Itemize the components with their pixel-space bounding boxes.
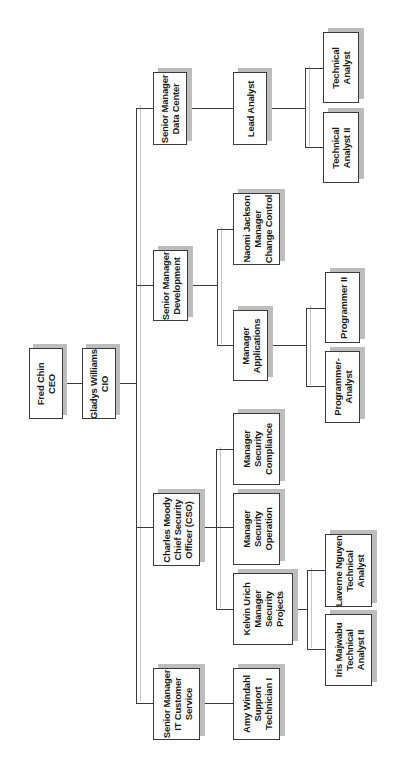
node-label: Technical Analyst	[330, 47, 352, 88]
node-label: Manager Security Compliance	[240, 423, 273, 475]
label-line: Senior Manager	[159, 74, 170, 142]
branch-cso	[216, 449, 217, 610]
node-mgr-security-operation: Manager Security Operation	[233, 493, 280, 565]
node-label: Amy Windahl Support Technician I	[240, 675, 273, 733]
label-line: Security	[251, 423, 262, 475]
label-line: Change Control	[262, 195, 273, 263]
node-label: Naomi Jackson Manager Change Control	[240, 195, 273, 263]
box: Iris Majwabu Technical Analyst II	[325, 614, 372, 686]
label-line: Laverne Nguyen	[332, 535, 343, 606]
node-label: Lead Analyst	[245, 80, 256, 136]
node-label: Senior Manager Data Center	[159, 74, 181, 142]
label-line: CIO	[99, 349, 110, 419]
node-label: Programmer II	[337, 277, 348, 339]
box: Fred Chin CEO	[29, 348, 63, 419]
label-line: Security	[251, 507, 262, 550]
connector-spine-development	[136, 285, 153, 286]
label-line: Applications	[251, 318, 262, 373]
box: Naomi Jackson Manager Change Control	[233, 193, 280, 265]
connector-technical-analyst-ii	[305, 147, 323, 148]
box: Senior Manager IT Customer Service	[153, 668, 200, 740]
node-lead-analyst: Lead Analyst	[233, 72, 267, 145]
box: Technical Analyst II	[323, 112, 359, 183]
connector-lead-branch	[267, 108, 305, 109]
branch-kelvin	[307, 570, 308, 650]
connector-iris	[307, 649, 325, 650]
connector-spine-datacenter	[136, 108, 153, 109]
label-line: Charles Moody	[160, 497, 171, 563]
connector-laverne	[307, 570, 325, 571]
branch-shadow	[310, 306, 311, 385]
box: Manager Security Compliance	[233, 413, 280, 485]
label-line: Manager	[240, 423, 251, 475]
label-line: Technical	[330, 47, 341, 88]
box: Programmer II	[325, 272, 360, 343]
node-label: Technical Analyst II	[330, 127, 352, 168]
node-label: Fred Chin CEO	[35, 362, 57, 405]
branch-shadow	[309, 66, 310, 146]
label-line: Kelvin Urich	[241, 582, 252, 635]
node-label: Kelvin Urich Manager Security Projects	[241, 582, 285, 635]
label-line: Security	[263, 582, 274, 635]
label-line: Support	[251, 675, 262, 733]
label-line: Technical	[343, 623, 354, 678]
spine-shadow	[140, 105, 141, 701]
node-kelvin-urich: Kelvin Urich Manager Security Projects	[233, 573, 293, 645]
node-label: Programmer- Analyst	[332, 358, 354, 415]
node-technical-analyst-ii: Technical Analyst II	[323, 112, 359, 183]
label-line: Fred Chin	[35, 362, 46, 405]
box: Kelvin Urich Manager Security Projects	[233, 573, 293, 645]
connector-applications-branch	[268, 345, 306, 346]
label-line: Analyst	[341, 47, 352, 88]
label-line: Service	[182, 670, 193, 738]
label-line: Technical	[330, 127, 341, 168]
label-line: Manager	[251, 195, 262, 263]
label-line: Programmer-	[332, 358, 343, 415]
label-line: Data Center	[170, 74, 181, 142]
label-line: Projects	[274, 582, 285, 635]
connector-datacenter-lead	[187, 108, 233, 109]
label-line: Operation	[262, 507, 273, 550]
label-line: Analyst	[343, 358, 354, 415]
node-technical-analyst: Technical Analyst	[323, 32, 359, 103]
box: Laverne Nguyen Technical Analyst	[325, 534, 372, 607]
node-label: Iris Majwabu Technical Analyst II	[332, 623, 365, 678]
connector-naomi	[217, 229, 233, 230]
node-programmer-ii: Programmer II	[325, 272, 360, 343]
connector-compliance	[216, 449, 233, 450]
branch-applications	[306, 308, 307, 387]
box: Programmer- Analyst	[325, 351, 360, 423]
branch-development	[217, 229, 218, 346]
node-mgr-security-compliance: Manager Security Compliance	[233, 413, 280, 485]
connector-programmer-ii	[306, 308, 325, 309]
label-line: Analyst II	[354, 623, 365, 678]
node-cio: Gladys Williams CIO	[82, 348, 116, 419]
label-line: IT Customer	[171, 670, 182, 738]
branch-shadow	[221, 227, 222, 344]
node-label: Senior Manager IT Customer Service	[160, 670, 193, 738]
node-amy-windahl: Amy Windahl Support Technician I	[233, 668, 280, 740]
label-line: Technician I	[262, 675, 273, 733]
branch-lead	[305, 68, 306, 148]
label-line: Senior Manager	[160, 251, 171, 319]
connector-operation	[216, 527, 233, 528]
label-line: Amy Windahl	[240, 675, 251, 733]
node-sm-development: Senior Manager Development	[153, 250, 188, 321]
label-line: Senior Manager	[160, 670, 171, 738]
node-charles-moody: Charles Moody Chief Security Officer (CS…	[153, 493, 200, 566]
box: Manager Applications	[233, 310, 268, 381]
label-line: Naomi Jackson	[240, 195, 251, 263]
label-line: Lead Analyst	[245, 80, 256, 136]
node-iris-majwabu: Iris Majwabu Technical Analyst II	[325, 614, 372, 686]
node-programmer-analyst: Programmer- Analyst	[325, 351, 360, 423]
box: Lead Analyst	[233, 72, 267, 145]
connector-technical-analyst	[305, 68, 323, 69]
box: Amy Windahl Support Technician I	[233, 668, 280, 740]
box: Gladys Williams CIO	[82, 348, 116, 419]
node-naomi-jackson: Naomi Jackson Manager Change Control	[233, 193, 280, 265]
label-line: Gladys Williams	[88, 349, 99, 419]
label-line: Analyst	[354, 535, 365, 606]
label-line: Development	[171, 251, 182, 319]
label-line: Manager	[240, 507, 251, 550]
node-laverne-nguyen: Laverne Nguyen Technical Analyst	[325, 534, 372, 607]
